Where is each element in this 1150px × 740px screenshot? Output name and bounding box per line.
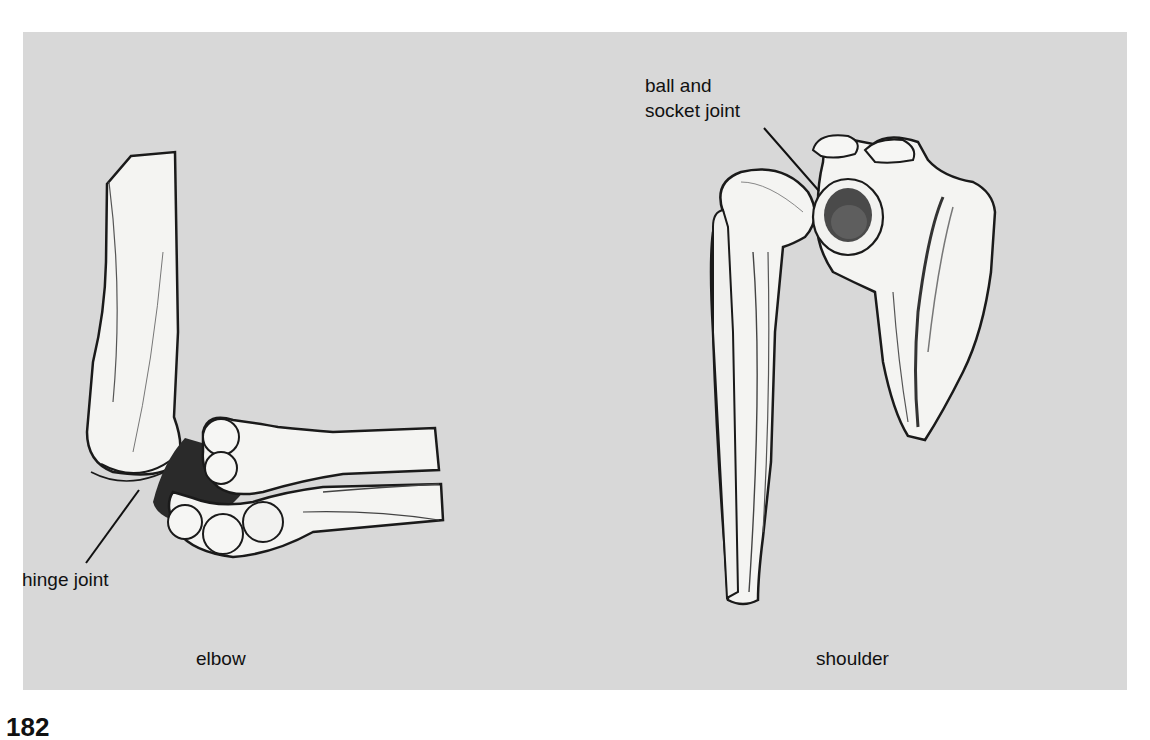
humerus-elbow xyxy=(87,152,180,474)
shoulder-caption: shoulder xyxy=(816,646,889,671)
page-number: 182 xyxy=(6,712,49,740)
hinge-joint-label: hinge joint xyxy=(22,567,109,592)
elbow-drawing xyxy=(86,152,443,563)
figure-panel: hinge joint ball and socket joint elbow … xyxy=(23,32,1127,690)
elbow-caption: elbow xyxy=(196,646,246,671)
shoulder-drawing xyxy=(711,128,995,604)
ball-socket-label-line2: socket joint xyxy=(645,98,740,123)
ball-socket-label-line1: ball and xyxy=(645,73,712,98)
joint-illustration xyxy=(23,32,1127,690)
